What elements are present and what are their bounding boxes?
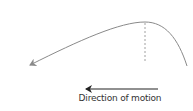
motion-caption: Direction of motion [70, 93, 170, 103]
diagram-canvas: Direction of motion [0, 0, 193, 111]
trajectory-curve [30, 22, 187, 66]
